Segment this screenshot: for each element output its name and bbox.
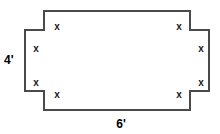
x-label-bottom-right-horizontal: x bbox=[174, 90, 184, 100]
x-label-left-upper-vertical: x bbox=[31, 44, 41, 54]
corner-cut-bottom-right bbox=[189, 90, 210, 111]
width-dimension-label: 6' bbox=[0, 118, 220, 130]
x-label-right-upper-vertical: x bbox=[196, 44, 206, 54]
x-label-bottom-left-horizontal: x bbox=[52, 90, 62, 100]
geometry-figure: x x x x x x x x 4' 6' bbox=[0, 0, 220, 134]
height-dimension-label: 4' bbox=[4, 54, 14, 66]
x-label-top-right-horizontal: x bbox=[174, 22, 184, 32]
x-label-top-left-horizontal: x bbox=[52, 22, 62, 32]
x-label-left-lower-vertical: x bbox=[31, 78, 41, 88]
x-label-right-lower-vertical: x bbox=[196, 78, 206, 88]
corner-cut-top-right bbox=[189, 10, 210, 31]
corner-cut-top-left bbox=[24, 10, 45, 31]
sheet-rectangle: x x x x x x x x bbox=[24, 10, 210, 111]
corner-cut-bottom-left bbox=[24, 90, 45, 111]
